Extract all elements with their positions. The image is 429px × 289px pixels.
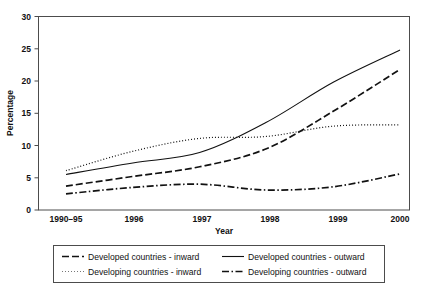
legend-label: Developed countries - outward xyxy=(248,252,365,262)
line-chart-svg: 30 25 20 15 10 5 0 Percentage 1990–95 19… xyxy=(0,0,429,289)
y-axis-title: Percentage xyxy=(5,90,15,136)
y-tick-label: 5 xyxy=(26,173,31,183)
x-tick-label: 1996 xyxy=(125,214,144,224)
y-tick-label: 30 xyxy=(22,12,32,22)
data-series-group xyxy=(66,50,400,194)
series-line-developing-outward xyxy=(66,174,400,194)
legend-label: Developing countries - inward xyxy=(88,267,201,277)
y-tick-label: 20 xyxy=(22,76,32,86)
x-tick-label: 1997 xyxy=(193,214,212,224)
x-tick-label: 1999 xyxy=(329,214,348,224)
y-axis-tick-labels: 30 25 20 15 10 5 0 xyxy=(22,12,32,216)
y-axis-ticks xyxy=(35,17,39,211)
legend-label: Developed countries - inward xyxy=(88,252,200,262)
chart-legend: Developed countries - inward Developed c… xyxy=(54,246,385,283)
series-line-developing-inward xyxy=(66,125,400,171)
x-tick-label: 2000 xyxy=(391,214,410,224)
plot-frame xyxy=(39,17,410,211)
x-tick-label: 1990–95 xyxy=(49,214,82,224)
chart-figure: 30 25 20 15 10 5 0 Percentage 1990–95 19… xyxy=(0,0,429,289)
series-line-developed-inward xyxy=(66,69,400,186)
x-axis-title: Year xyxy=(215,226,234,236)
y-tick-label: 25 xyxy=(22,44,32,54)
series-line-developed-outward xyxy=(66,50,400,174)
y-tick-label: 15 xyxy=(22,108,32,118)
x-tick-label: 1998 xyxy=(261,214,280,224)
y-tick-label: 10 xyxy=(22,141,32,151)
legend-label: Developing countries - outward xyxy=(248,267,367,277)
y-tick-label: 0 xyxy=(26,205,31,215)
x-axis-tick-labels: 1990–95 1996 1997 1998 1999 2000 xyxy=(49,214,409,224)
